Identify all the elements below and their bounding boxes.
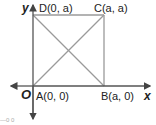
point-a-label: A(0, 0) xyxy=(36,90,69,102)
point-b-label: B(a, 0) xyxy=(101,90,134,102)
footer-fragment: —0 0 xyxy=(0,117,14,123)
y-axis-label: y xyxy=(22,2,29,14)
point-d-label: D(0, a) xyxy=(39,2,73,14)
square xyxy=(33,15,104,86)
x-axis-label: x xyxy=(144,90,151,102)
origin-label: O xyxy=(21,89,31,101)
point-c-label: C(a, a) xyxy=(94,2,128,14)
diagram-canvas xyxy=(0,0,156,125)
